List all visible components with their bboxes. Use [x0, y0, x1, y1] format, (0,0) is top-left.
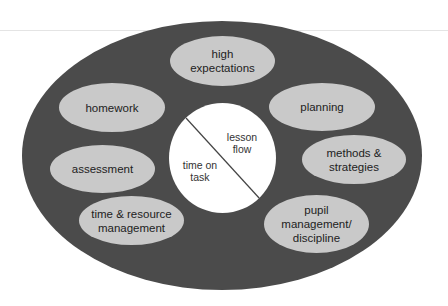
oval-label: planning: [300, 100, 343, 114]
oval-label: methods & strategies: [327, 146, 382, 174]
oval-label: homework: [85, 101, 138, 115]
oval-homework: homework: [59, 83, 165, 132]
diagonal-divider: [169, 103, 276, 213]
oval-planning: planning: [269, 83, 375, 131]
oval-high-expectations: high expectations: [170, 36, 275, 86]
center-circle: lesson flow time on task: [169, 103, 276, 213]
oval-methods-strategies: methods & strategies: [302, 135, 406, 184]
center-label-time-on-task: time on task: [178, 159, 222, 183]
oval-label: assessment: [72, 162, 133, 176]
oval-assessment: assessment: [50, 145, 155, 193]
oval-pupil-management-discipline: pupil management/ discipline: [264, 195, 369, 253]
oval-label: pupil management/ discipline: [281, 203, 351, 245]
oval-label: high expectations: [190, 47, 255, 75]
center-label-lesson-flow: lesson flow: [222, 131, 262, 155]
oval-label: time & resource management: [91, 207, 172, 235]
